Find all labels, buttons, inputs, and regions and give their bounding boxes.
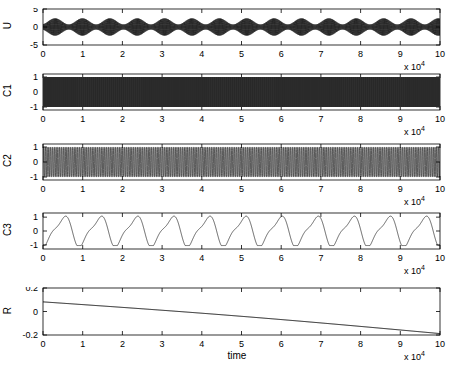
x-tick-label: 1 xyxy=(80,253,85,263)
x-tick-label: 10 xyxy=(435,184,445,194)
x-tick-label: 7 xyxy=(318,339,323,349)
y-tick-label: -1 xyxy=(30,240,38,250)
x-tick-label: 6 xyxy=(279,339,284,349)
x-tick-label: 5 xyxy=(239,49,244,59)
y-tick-label: 1 xyxy=(33,143,38,152)
x-tick-label: 2 xyxy=(120,49,125,59)
x-axis-exponent-c1: x 104 xyxy=(404,125,425,137)
x-tick-label: 4 xyxy=(199,253,204,263)
y-axis-label-c3: C3 xyxy=(2,210,13,250)
x-tick-label: 2 xyxy=(120,184,125,194)
x-tick-label: 8 xyxy=(358,253,363,263)
y-tick-label: 1 xyxy=(33,212,38,222)
exponent-base: x 10 xyxy=(404,266,421,276)
x-tick-label: 10 xyxy=(435,339,445,349)
exponent-base: x 10 xyxy=(404,127,421,137)
exponent-power: 4 xyxy=(421,125,425,132)
x-tick-label: 4 xyxy=(199,184,204,194)
x-tick-label: 9 xyxy=(398,339,403,349)
subplot-u: 012345678910-505Ux 104 xyxy=(0,8,462,78)
x-tick-label: 8 xyxy=(358,184,363,194)
y-tick-label: -1 xyxy=(30,102,38,112)
x-tick-label: 1 xyxy=(80,339,85,349)
axes-c3: 012345678910-101 xyxy=(0,212,462,282)
data-layer xyxy=(43,147,440,177)
y-tick-label: -5 xyxy=(30,40,38,50)
y-tick-label: 0 xyxy=(33,87,38,97)
x-tick-label: 10 xyxy=(435,49,445,59)
y-tick-label: 0.2 xyxy=(25,287,38,293)
x-tick-label: 4 xyxy=(199,339,204,349)
exponent-power: 4 xyxy=(421,350,425,357)
x-tick-label: 0 xyxy=(40,114,45,124)
x-tick-label: 0 xyxy=(40,49,45,59)
x-tick-label: 4 xyxy=(199,49,204,59)
axes-c2: 012345678910-101 xyxy=(0,143,462,213)
subplot-r: 012345678910-0.200.2Rx 104time xyxy=(0,287,462,368)
x-tick-label: 2 xyxy=(120,339,125,349)
x-axis-label: time xyxy=(228,350,247,361)
x-axis-exponent-c2: x 104 xyxy=(404,195,425,207)
x-tick-label: 6 xyxy=(279,253,284,263)
data-series-c1 xyxy=(43,77,440,107)
y-axis-label-c1: C1 xyxy=(2,71,13,111)
x-tick-label: 7 xyxy=(318,49,323,59)
exponent-base: x 10 xyxy=(404,352,421,362)
x-tick-label: 2 xyxy=(120,114,125,124)
x-axis-exponent-c3: x 104 xyxy=(404,264,425,276)
x-tick-label: 6 xyxy=(279,184,284,194)
x-tick-label: 1 xyxy=(80,114,85,124)
x-tick-label: 9 xyxy=(398,49,403,59)
x-tick-label: 7 xyxy=(318,114,323,124)
exponent-power: 4 xyxy=(421,195,425,202)
data-series-c2 xyxy=(43,147,440,177)
x-tick-label: 8 xyxy=(358,114,363,124)
x-tick-label: 10 xyxy=(435,253,445,263)
x-tick-label: 2 xyxy=(120,253,125,263)
x-tick-label: 3 xyxy=(160,253,165,263)
x-axis-exponent-r: x 104 xyxy=(404,350,425,362)
x-tick-label: 8 xyxy=(358,49,363,59)
y-tick-label: -1 xyxy=(30,172,38,182)
axes-frame xyxy=(43,213,440,249)
x-tick-label: 8 xyxy=(358,339,363,349)
x-tick-label: 6 xyxy=(279,114,284,124)
x-tick-label: 7 xyxy=(318,184,323,194)
data-layer xyxy=(43,77,440,107)
subplot-c3: 012345678910-101C3x 104 xyxy=(0,212,462,282)
x-tick-label: 3 xyxy=(160,184,165,194)
exponent-base: x 10 xyxy=(404,197,421,207)
x-tick-label: 6 xyxy=(279,49,284,59)
x-tick-label: 9 xyxy=(398,184,403,194)
y-tick-label: 0 xyxy=(33,22,38,32)
data-layer xyxy=(43,302,440,334)
subplot-c1: 012345678910-101C1x 104 xyxy=(0,73,462,143)
x-tick-label: 0 xyxy=(40,184,45,194)
x-tick-label: 1 xyxy=(80,49,85,59)
data-series-r xyxy=(43,302,440,334)
y-tick-label: 0 xyxy=(33,307,38,317)
y-axis-label-c2: C2 xyxy=(2,141,13,181)
x-tick-label: 4 xyxy=(199,114,204,124)
x-tick-label: 9 xyxy=(398,253,403,263)
exponent-base: x 10 xyxy=(404,62,421,72)
x-tick-label: 0 xyxy=(40,253,45,263)
axes-c1: 012345678910-101 xyxy=(0,73,462,143)
x-tick-label: 5 xyxy=(239,184,244,194)
axes-u: 012345678910-505 xyxy=(0,8,462,78)
data-layer xyxy=(43,18,440,35)
x-tick-label: 9 xyxy=(398,114,403,124)
y-tick-label: 5 xyxy=(33,8,38,14)
y-tick-label: 1 xyxy=(33,73,38,82)
x-tick-label: 1 xyxy=(80,184,85,194)
data-series-u xyxy=(43,18,440,35)
x-tick-label: 3 xyxy=(160,339,165,349)
y-axis-label-r: R xyxy=(2,290,13,330)
x-tick-label: 5 xyxy=(239,253,244,263)
y-tick-label: -0.2 xyxy=(22,330,38,340)
exponent-power: 4 xyxy=(421,264,425,271)
x-tick-label: 0 xyxy=(40,339,45,349)
x-tick-label: 10 xyxy=(435,114,445,124)
data-series-c3 xyxy=(43,216,440,245)
y-tick-label: 0 xyxy=(33,157,38,167)
